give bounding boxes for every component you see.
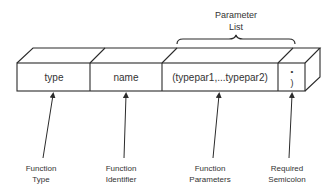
- label-function-parameters-1: Function: [195, 164, 226, 173]
- arrow-icon: [43, 95, 53, 158]
- label-function-type-1: Function: [26, 164, 57, 173]
- function-prototype-diagram: Parameter List type name (typepar1,...ty…: [0, 0, 332, 193]
- label-required-semicolon-1: Required: [271, 164, 303, 173]
- arrow-icon: [124, 95, 126, 158]
- segment-name: name: [113, 72, 138, 83]
- arrow-icon: [289, 95, 292, 158]
- segment-semicolon-tail: ): [291, 78, 294, 88]
- segment-parameters: (typepar1,...typepar2): [172, 72, 268, 83]
- arrow-icon: [213, 95, 219, 158]
- label-function-identifier-2: Identifier: [106, 175, 137, 184]
- header-line1: Parameter: [215, 10, 257, 20]
- label-function-type-2: Type: [32, 175, 50, 184]
- header-line2: List: [229, 22, 244, 32]
- segment-type: type: [45, 72, 64, 83]
- parameter-list-brace: [177, 35, 295, 44]
- label-required-semicolon-2: Semicolon: [268, 175, 305, 184]
- declaration-box: [17, 48, 320, 91]
- label-function-parameters-2: Parameters: [189, 175, 230, 184]
- label-function-identifier-1: Function: [106, 164, 137, 173]
- pointer-arrows: [43, 95, 292, 158]
- segment-semicolon-dot: •: [291, 67, 294, 76]
